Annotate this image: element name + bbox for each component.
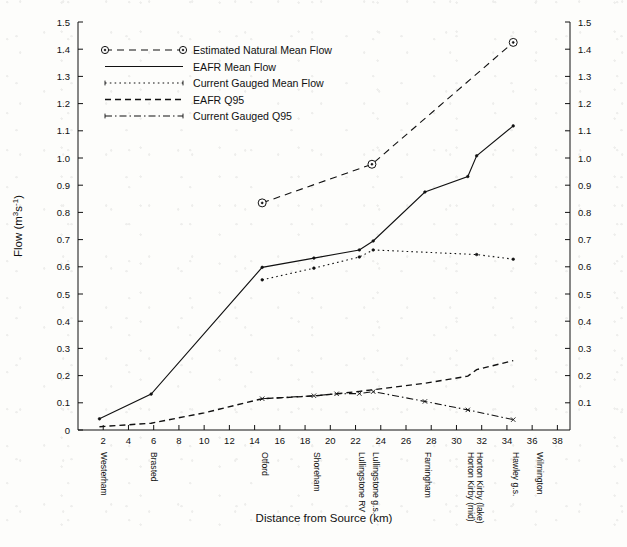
data-point-marker [313,257,316,260]
data-point-marker [372,249,375,252]
category-label-5: Lullingstone g.s. [371,452,381,514]
y-tick-label: 0.8 [57,207,70,218]
legend-item-1: EAFR Mean Flow [105,61,276,73]
category-label-0: Westerham [99,452,109,496]
x-tick-label: 22 [350,435,361,446]
chart-legend: Estimated Natural Mean FlowEAFR Mean Flo… [101,44,332,122]
x-tick-label: 2 [101,435,106,446]
data-point-marker [358,256,361,259]
category-label-10: Wilmington [535,452,545,495]
x-tick-label: 20 [325,435,336,446]
y-tick-label: 1.1 [57,125,70,136]
series-line [99,126,513,419]
data-point-center [371,163,373,165]
y-tick-label-right: 0.6 [578,261,591,272]
y-tick-label-right: 0.7 [578,234,591,245]
y-tick-label: 0.1 [57,397,70,408]
series-4 [260,389,515,421]
y-tick-label-right: 0.3 [578,343,591,354]
x-tick-label: 12 [224,435,235,446]
y-tick-label-right: 1.4 [578,44,591,55]
series-0 [258,38,517,206]
series-1 [98,125,514,421]
legend-item-3: EAFR Q95 [105,94,244,106]
category-label-2: Otford [260,452,270,476]
y-tick-label-right: 0.2 [578,370,591,381]
x-tick-label: 28 [426,435,437,446]
series-2 [261,249,515,282]
x-tick-label: 38 [552,435,563,446]
y-axis-title: Flow (m3s-1) [11,195,24,257]
data-point-marker [475,253,478,256]
data-point-marker [467,175,470,178]
x-tick-label: 30 [451,435,462,446]
x-tick-label: 36 [527,435,538,446]
data-point-marker [358,249,361,252]
legend-item-4: Current Gauged Q95 [105,110,292,122]
data-point-marker [98,418,101,421]
y-tick-label: 0.9 [57,180,70,191]
x-axis-title: Distance from Source (km) [256,512,393,524]
legend-label-1: EAFR Mean Flow [193,61,276,73]
y-tick-label: 0.3 [57,343,70,354]
y-tick-label: 1.5 [57,17,70,28]
legend-marker-center [182,49,184,51]
data-point-marker [313,267,316,270]
category-label-1: Brasted [149,452,159,482]
data-series-layer [98,38,517,426]
y-tick-label-right: 1.3 [578,71,591,82]
series-3 [99,361,513,427]
y-tick-label-right: 1.2 [578,98,591,109]
y-tick-label-right: 1.0 [578,153,591,164]
x-tick-label: 34 [502,435,513,446]
x-tick-label: 16 [275,435,286,446]
x-tick-label: 18 [300,435,311,446]
x-tick-label: 4 [126,435,131,446]
x-tick-label: 6 [151,435,156,446]
legend-label-2: Current Gauged Mean Flow [193,77,324,89]
x-tick-label: 32 [476,435,487,446]
y-tick-label: 0 [65,425,70,436]
data-point-marker [512,125,515,128]
data-point-marker [150,393,153,396]
legend-item-0: Estimated Natural Mean Flow [101,44,332,56]
category-label-3: Shoreham [312,452,322,492]
legend-label-0: Estimated Natural Mean Flow [193,44,332,56]
legend-label-4: Current Gauged Q95 [193,110,292,122]
data-point-marker [475,155,478,158]
series-line [262,392,513,420]
x-tick-label: 14 [249,435,260,446]
data-point-marker [372,240,375,243]
x-axis-ticks: 2468101214161820222426283032343638 [101,425,563,446]
x-tick-label: 24 [375,435,386,446]
y-tick-label-right: 0.1 [578,397,591,408]
y-tick-label: 1.3 [57,71,70,82]
y-tick-label: 0.7 [57,234,70,245]
category-label-9: Hawley g.s. [511,452,521,496]
y-tick-label: 0.4 [57,316,70,327]
legend-label-3: EAFR Q95 [193,94,244,106]
data-point-marker [424,191,427,194]
y-axis-right-ticks: 0.10.20.30.40.50.60.70.80.91.01.11.21.31… [565,17,591,409]
data-point-center [261,202,263,204]
x-tick-label: 10 [199,435,210,446]
y-tick-label-right: 1.1 [578,125,591,136]
legend-item-2: Current Gauged Mean Flow [105,77,324,89]
y-tick-label: 1.4 [57,44,70,55]
x-tick-label: 26 [401,435,412,446]
series-line [262,42,513,202]
data-point-marker [512,258,515,261]
y-tick-label: 0.2 [57,370,70,381]
legend-marker-center [104,49,106,51]
flow-vs-distance-line-chart: 00.10.20.30.40.50.60.70.80.91.01.11.21.3… [0,0,627,547]
y-tick-label-right: 0.9 [578,180,591,191]
data-point-marker [261,266,264,269]
y-tick-label: 0.6 [57,261,70,272]
category-label-4: Lullingstone RV [357,452,367,512]
category-label-8: Horton Kirby (lake) [475,452,485,524]
axes-group [78,22,570,430]
y-axis-left-ticks: 00.10.20.30.40.50.60.70.80.91.01.11.21.3… [57,17,83,436]
series-line [99,361,513,427]
y-tick-label-right: 1.5 [578,17,591,28]
y-tick-label: 1.2 [57,98,70,109]
